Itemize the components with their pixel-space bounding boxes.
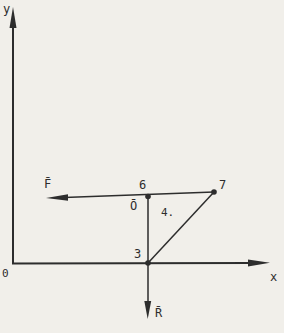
point-3-dot — [145, 260, 151, 266]
point-3-label: 3 — [134, 247, 141, 261]
force-r-label: R̄ — [155, 306, 163, 320]
point-7-label: 7 — [219, 178, 226, 192]
diagram-canvas: y x 0 F̄ R̄ 6 Ō 7 3 4. — [0, 0, 284, 333]
x-axis-label: x — [270, 270, 277, 284]
segment-7-3-line — [148, 192, 214, 263]
segment-length-label: 4. — [161, 206, 174, 219]
point-6-dot — [145, 194, 151, 200]
y-axis-label: y — [3, 2, 10, 16]
force-f-line — [64, 192, 214, 198]
force-f-arrowhead-icon — [46, 194, 68, 201]
force-diagram-figure: y x 0 F̄ R̄ 6 Ō 7 3 4. — [0, 0, 284, 333]
x-axis-arrowhead-icon — [248, 260, 270, 267]
point-6-label: 6 — [139, 178, 146, 192]
origin-label: 0 — [2, 267, 9, 280]
y-axis-arrowhead-icon — [10, 7, 17, 28]
x-axis-line — [12, 263, 252, 264]
point-o-label: Ō — [130, 199, 137, 213]
force-f-label: F̄ — [44, 177, 51, 191]
force-r-arrowhead-icon — [144, 301, 151, 319]
point-7-dot — [211, 189, 217, 195]
